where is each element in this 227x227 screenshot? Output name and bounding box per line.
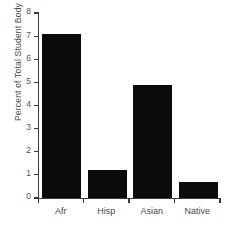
bar-afr[interactable] bbox=[42, 34, 81, 198]
y-tick-2: 2 bbox=[34, 151, 39, 152]
chart-title bbox=[0, 0, 227, 2]
x-tick-label-afr: Afr bbox=[55, 206, 67, 216]
y-tick-5: 5 bbox=[34, 82, 39, 83]
x-tick-0 bbox=[83, 198, 84, 203]
y-tick-label-4: 4 bbox=[26, 99, 31, 109]
y-tick-label-7: 7 bbox=[26, 30, 31, 40]
bar-asian[interactable] bbox=[133, 85, 172, 198]
x-tick-label-native: Native bbox=[184, 206, 210, 216]
y-tick-label-3: 3 bbox=[26, 122, 31, 132]
bar-hisp[interactable] bbox=[88, 170, 127, 198]
y-tick-4: 4 bbox=[34, 105, 39, 106]
y-tick-label-6: 6 bbox=[26, 53, 31, 63]
y-axis-title: Percent of Total Student Body bbox=[13, 0, 23, 137]
x-tick-3 bbox=[219, 198, 220, 203]
x-tick-label-hisp: Hisp bbox=[97, 206, 115, 216]
x-tick-label-asian: Asian bbox=[140, 206, 163, 216]
y-tick-7: 7 bbox=[34, 36, 39, 37]
y-tick-label-1: 1 bbox=[26, 168, 31, 178]
y-tick-label-0: 0 bbox=[26, 191, 31, 201]
x-tick-2 bbox=[174, 198, 175, 203]
bar-chart-figure: Percent of Total Student Body 012345678 … bbox=[0, 0, 227, 227]
x-tick-1 bbox=[128, 198, 129, 203]
y-tick-label-8: 8 bbox=[26, 6, 31, 16]
bar-native[interactable] bbox=[179, 182, 218, 198]
y-tick-8: 8 bbox=[34, 12, 39, 13]
y-tick-6: 6 bbox=[34, 59, 39, 60]
y-tick-label-5: 5 bbox=[26, 76, 31, 86]
x-tick-origin bbox=[38, 198, 39, 203]
y-tick-1: 1 bbox=[34, 174, 39, 175]
y-tick-3: 3 bbox=[34, 128, 39, 129]
y-tick-label-2: 2 bbox=[26, 145, 31, 155]
plot-area: 012345678 AfrHispAsianNative bbox=[38, 13, 220, 198]
